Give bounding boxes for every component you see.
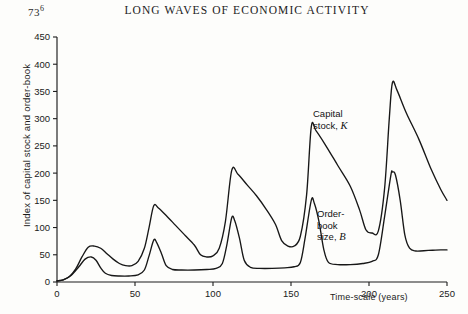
order-book-line1: Order- bbox=[317, 208, 344, 219]
capital-stock-symbol: K bbox=[340, 120, 347, 131]
svg-text:100: 100 bbox=[34, 222, 50, 233]
svg-text:200: 200 bbox=[34, 168, 50, 179]
order-book-line2: book bbox=[317, 220, 338, 231]
y-axis-ticks: 050100150200250300350400450 bbox=[34, 31, 57, 287]
order-book-symbol: B bbox=[339, 231, 345, 242]
svg-text:200: 200 bbox=[361, 288, 377, 299]
capital-stock-line2: stock, bbox=[313, 120, 338, 131]
svg-text:250: 250 bbox=[34, 140, 50, 151]
svg-text:300: 300 bbox=[34, 113, 50, 124]
order-book-line3: size, bbox=[317, 231, 337, 242]
order-book-curve bbox=[57, 171, 447, 281]
capital-stock-curve bbox=[57, 81, 447, 281]
svg-text:50: 50 bbox=[39, 249, 50, 260]
capital-stock-annotation: Capital stock, K bbox=[313, 108, 347, 131]
svg-text:400: 400 bbox=[34, 59, 50, 70]
svg-text:350: 350 bbox=[34, 86, 50, 97]
svg-text:150: 150 bbox=[283, 288, 299, 299]
svg-text:0: 0 bbox=[45, 276, 50, 287]
capital-stock-line1: Capital bbox=[313, 108, 343, 119]
chart-canvas: 050100150200250300350400450 050100150200… bbox=[0, 0, 468, 314]
x-axis-ticks: 050100150200250 bbox=[54, 282, 455, 299]
svg-text:450: 450 bbox=[34, 31, 50, 42]
svg-text:100: 100 bbox=[205, 288, 221, 299]
svg-text:150: 150 bbox=[34, 195, 50, 206]
svg-text:0: 0 bbox=[54, 288, 59, 299]
svg-text:250: 250 bbox=[439, 288, 455, 299]
svg-text:50: 50 bbox=[130, 288, 141, 299]
order-book-annotation: Order- book size, B bbox=[317, 208, 346, 243]
